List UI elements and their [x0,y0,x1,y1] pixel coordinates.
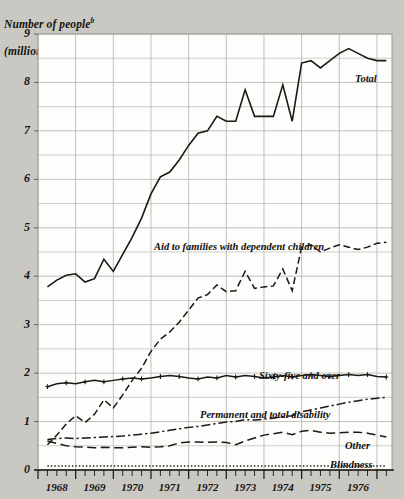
y-axis-tick-label: 2 [8,365,30,380]
y-axis-tick-label: 8 [8,74,30,89]
chart-figure: Number of peopleb (millions) 01234567891… [0,0,404,499]
y-axis-tick-label: 0 [8,462,30,477]
series-label-total: Total [355,73,377,84]
y-axis-tick-label: 9 [8,26,30,41]
y-axis-tick-label: 4 [8,268,30,283]
series-label-aid-to-families-with-dependent-children: Aid to families with dependent children [154,241,324,252]
series-label-sixty-five-and-over: Sixty-five and over [259,370,340,381]
y-axis-tick-label: 3 [8,317,30,332]
series-label-other: Other [345,440,370,451]
y-axis-tick-label: 7 [8,123,30,138]
y-axis-tick-label: 1 [8,414,30,429]
y-axis-tick-label: 6 [8,171,30,186]
x-axis-tick-label: 1976 [335,481,381,493]
series-label-permanent-and-total-disability: Permanent and total disability [200,409,330,420]
series-label-blindness: Blindness [330,459,373,470]
y-axis-ticks [34,34,38,470]
y-axis-tick-label: 5 [8,220,30,235]
x-axis [34,470,394,479]
